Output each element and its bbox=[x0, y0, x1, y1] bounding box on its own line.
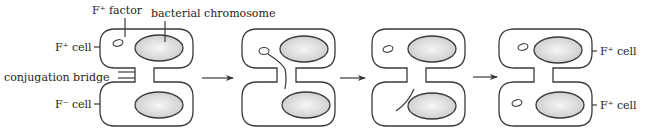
f-plasmid-icon bbox=[259, 48, 269, 55]
label-recipient-cell: F⁻ cell bbox=[55, 98, 92, 111]
label-donor-cell: F⁺ cell bbox=[55, 41, 92, 54]
bacterial-chromosome-top bbox=[408, 36, 456, 62]
label-conjugation-bridge: conjugation bridge bbox=[4, 71, 110, 84]
label-f-factor: F⁺ factor bbox=[92, 4, 143, 17]
bacterial-chromosome-bottom bbox=[536, 92, 584, 118]
stage-2-cells bbox=[242, 29, 335, 126]
label-result-cell-bottom: F⁺ cell bbox=[600, 99, 637, 112]
bacterial-chromosome-bottom bbox=[282, 92, 330, 118]
stage-3-cells bbox=[372, 29, 465, 126]
conjugation-diagram: F⁺ factor bacterial chromosome F⁺ cell c… bbox=[0, 0, 648, 138]
stage-1-cells bbox=[100, 29, 193, 126]
label-bacterial-chromosome: bacterial chromosome bbox=[151, 7, 275, 20]
bacterial-chromosome-top bbox=[534, 37, 582, 63]
bacterial-chromosome-bottom bbox=[408, 93, 456, 119]
bacterial-chromosome-top bbox=[135, 35, 183, 61]
label-result-cell-top: F⁺ cell bbox=[600, 45, 637, 58]
bacterial-chromosome-top bbox=[280, 36, 328, 62]
bacterial-chromosome-bottom bbox=[135, 92, 183, 118]
stage-4-cells bbox=[499, 29, 592, 126]
